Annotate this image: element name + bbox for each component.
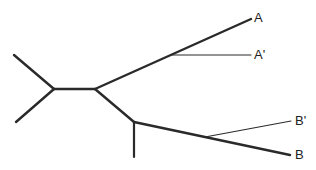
branch-b-prime [205,121,291,137]
label-b-prime: B' [295,114,306,127]
branch-b [134,122,290,155]
label-a-prime: A' [254,48,265,61]
label-a: A [254,11,263,24]
branch-left-lower [16,89,54,122]
tree-diagram: A A' B' B [0,0,316,170]
branch-a [95,19,251,89]
label-b: B [295,148,304,161]
branch-lower-internal [95,89,134,122]
tree-branches [0,0,316,170]
branch-left-upper [14,55,54,89]
